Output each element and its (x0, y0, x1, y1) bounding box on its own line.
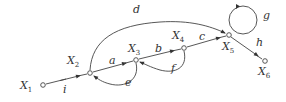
edge-label-h: h (256, 36, 263, 49)
node-x5 (227, 33, 232, 38)
edge-label-i: i (63, 83, 67, 96)
label-x5: X5 (221, 40, 234, 55)
edge-g-selfloop (229, 4, 257, 34)
edge-label-c: c (199, 30, 205, 43)
edge-label-a: a (109, 54, 116, 67)
edge-label-d: d (133, 3, 140, 16)
edge-label-g: g (263, 9, 270, 22)
edge-label-e: e (125, 76, 132, 89)
node-x2 (88, 71, 93, 76)
label-x6: X6 (257, 65, 271, 80)
node-x6 (263, 59, 268, 64)
signal-flow-graph: X1 X2 X3 X4 X5 X6 i a e b f c d g h (0, 0, 286, 102)
label-x4: X4 (171, 29, 185, 44)
label-x1: X1 (19, 79, 32, 94)
edge-f (140, 51, 185, 71)
label-x2: X2 (66, 54, 79, 69)
edge-label-f: f (170, 62, 177, 75)
edge-c (187, 36, 226, 47)
label-x3: X3 (127, 42, 140, 57)
node-x4 (182, 46, 187, 51)
node-x3 (134, 58, 139, 63)
node-x1 (41, 83, 46, 88)
edge-label-b: b (155, 42, 162, 55)
